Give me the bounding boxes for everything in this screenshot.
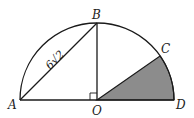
label-b: B [91, 8, 101, 22]
length-label-ab: 6√2 [43, 48, 67, 72]
label-o: O [92, 104, 102, 118]
label-d: D [175, 98, 186, 112]
svg-text:6√2: 6√2 [43, 48, 67, 72]
label-a: A [7, 98, 17, 112]
label-c: C [161, 42, 170, 56]
semicircle-diagram: A B C O D 6√2 [0, 0, 194, 118]
right-angle-marker [90, 93, 97, 100]
shaded-sector-cod [97, 56, 174, 100]
